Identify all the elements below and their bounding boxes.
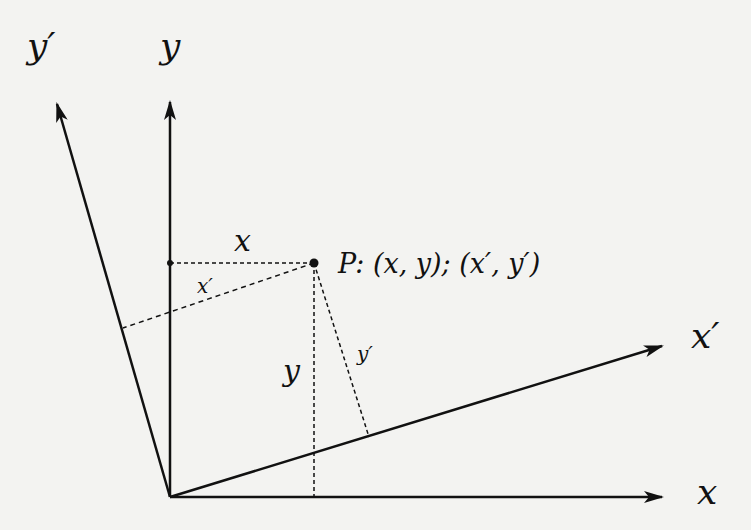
y-prime-axis xyxy=(57,104,170,497)
y-axis-label: y xyxy=(160,28,180,64)
y-prime-projection-label: y′ xyxy=(357,344,373,364)
x-projection-label: x xyxy=(234,226,251,256)
y-projection-label: y xyxy=(283,356,300,386)
x-prime-axis xyxy=(170,346,662,497)
x-prime-projection-line xyxy=(123,263,314,328)
y-prime-axis-label: y′ xyxy=(27,28,56,64)
x-axis-label: x xyxy=(697,474,717,510)
y-axis-foot-dot xyxy=(167,260,173,266)
x-prime-projection-label: x′ xyxy=(197,276,213,296)
x-prime-axis-label: x′ xyxy=(691,318,719,354)
point-p xyxy=(310,259,319,268)
point-p-label: P: (x, y); (x′, y′) xyxy=(338,250,540,277)
